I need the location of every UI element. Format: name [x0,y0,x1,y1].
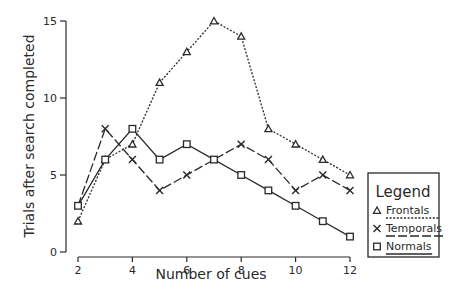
y-axis-title: Trials after search completed [21,34,37,238]
square-marker [184,141,191,148]
series-line [78,21,350,221]
x-marker [129,156,136,163]
y-tick-label: 15 [43,15,57,28]
x-tick-label: 10 [289,264,303,277]
x-marker [292,187,299,194]
x-marker [347,187,354,194]
series-temporals [75,125,354,209]
x-tick-label: 2 [75,264,82,277]
y-tick-label: 0 [50,246,57,259]
square-marker [238,172,245,179]
y-tick-label: 5 [50,169,57,182]
x-marker [319,172,326,179]
legend-label: Frontals [386,204,430,217]
legend-title: Legend [375,183,430,201]
square-marker [265,187,272,194]
x-marker [183,172,190,179]
square-marker [292,203,299,210]
square-marker [211,156,218,163]
x-tick-label: 12 [343,264,357,277]
triangle-marker [265,125,272,131]
triangle-marker [347,172,354,178]
legend: Legend FrontalsTemporalsNormals [368,173,445,257]
series-line [78,129,350,237]
square-marker [156,156,163,163]
legend-label: Normals [386,240,432,253]
series-group [75,18,354,240]
x-marker [102,125,109,132]
x-marker [156,187,163,194]
y-tick-label: 10 [43,92,57,105]
series-frontals [75,18,354,225]
triangle-marker [238,33,245,39]
x-marker [238,141,245,148]
series-line [78,129,350,206]
x-tick-label: 4 [129,264,136,277]
triangle-marker [211,18,218,24]
triangle-marker [129,141,136,147]
legend-label: Temporals [385,222,442,235]
square-marker [374,243,381,250]
square-marker [75,203,82,210]
triangle-marker [319,156,326,162]
y-axis: 051015 [43,15,66,259]
triangle-marker [75,218,82,224]
square-marker [320,218,327,225]
triangle-marker [292,141,299,147]
x-axis-title: Number of cues [155,266,266,282]
square-marker [347,233,354,240]
square-marker [129,126,136,133]
square-marker [102,156,109,163]
series-normals [75,126,354,240]
x-marker [265,156,272,163]
line-chart: 051015 24681012 Trials after search comp… [0,0,464,293]
